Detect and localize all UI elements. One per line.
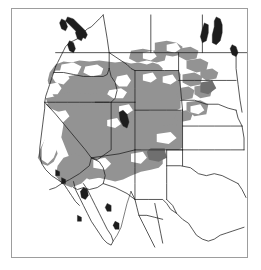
pacific-island-c bbox=[77, 215, 81, 221]
border-oklahoma-texas bbox=[167, 166, 238, 184]
border-missouri-kansas bbox=[242, 126, 244, 150]
map-frame bbox=[11, 8, 248, 258]
range-hole-central-valley bbox=[42, 108, 64, 164]
coast-sonora-mexico bbox=[131, 192, 155, 248]
map-canvas bbox=[12, 9, 247, 257]
border-arizona-mexico bbox=[103, 184, 135, 200]
border-new-mexico-mexico bbox=[135, 199, 177, 213]
border-minnesota-dakota bbox=[236, 53, 242, 113]
coast-gulf-of-california bbox=[113, 192, 131, 242]
gulf-island-a bbox=[113, 221, 119, 229]
border-bc-alberta bbox=[103, 15, 109, 53]
lake-winnipeg bbox=[212, 17, 222, 45]
salton-sea bbox=[80, 188, 88, 200]
lake-manitoba bbox=[200, 23, 208, 43]
puget-sound-water bbox=[68, 41, 76, 53]
distribution-map-figure bbox=[0, 0, 261, 270]
border-iowa-nebraska bbox=[236, 110, 242, 126]
coast-baja-california bbox=[73, 182, 113, 245]
caption-strip bbox=[0, 258, 261, 270]
range-patch-north-dakota-b bbox=[200, 69, 218, 81]
border-texas-mexico-rio-grande bbox=[167, 199, 244, 241]
lake-of-the-woods bbox=[230, 45, 238, 57]
gulf-island-b bbox=[105, 203, 111, 211]
coast-gulf-texas bbox=[238, 184, 246, 198]
range-patch-montana-east bbox=[179, 47, 199, 61]
border-mexico-internal-south bbox=[139, 215, 163, 219]
border-mexico-internal-chihuahua bbox=[155, 203, 163, 243]
range-patch-dakota-dark bbox=[200, 80, 216, 94]
range-patch-south-dakota-a bbox=[183, 72, 203, 86]
